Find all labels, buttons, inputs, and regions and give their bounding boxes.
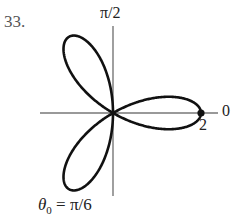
axis-label-pi-over-2: π/2	[100, 4, 121, 22]
theta-annotation: θ0 = π/6	[38, 195, 92, 216]
axis-label-zero: 0	[222, 102, 230, 120]
theta-value: = π/6	[52, 195, 92, 214]
radius-label-2: 2	[199, 116, 207, 134]
polar-rose-chart	[0, 0, 234, 218]
